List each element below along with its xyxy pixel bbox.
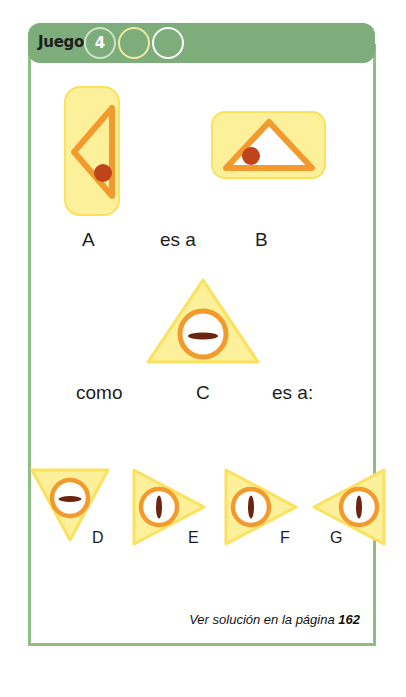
shape-c-bar bbox=[188, 333, 218, 340]
header-title: Juego bbox=[38, 33, 84, 52]
game-page: Juego 4 A es a B como C es a: bbox=[0, 0, 406, 697]
shape-c-triangle bbox=[146, 278, 260, 364]
option-d-label: D bbox=[92, 529, 104, 547]
shape-a-dot bbox=[94, 164, 112, 182]
option-e-label: E bbox=[188, 529, 199, 547]
relation-es-a-2: es a: bbox=[272, 382, 313, 404]
header-bar: Juego 4 bbox=[28, 23, 375, 63]
header-circle-white bbox=[152, 27, 184, 59]
solution-page-number: 162 bbox=[338, 612, 360, 627]
relation-es-a-1: es a bbox=[160, 229, 196, 251]
shape-b-triangle bbox=[222, 118, 316, 172]
shape-b-dot bbox=[242, 147, 260, 165]
label-c: C bbox=[196, 382, 210, 404]
option-g-label: G bbox=[330, 529, 342, 547]
label-b: B bbox=[255, 229, 268, 251]
solution-note: Ver solución en la página 162 bbox=[189, 612, 360, 627]
solution-note-text: Ver solución en la página bbox=[189, 612, 338, 627]
option-f-label: F bbox=[280, 529, 290, 547]
connector-como: como bbox=[76, 382, 122, 404]
option-g[interactable] bbox=[310, 466, 388, 548]
label-a: A bbox=[82, 229, 95, 251]
shape-a-triangle bbox=[72, 104, 116, 200]
header-badge-number: 4 bbox=[86, 29, 114, 57]
header-circle-yellow bbox=[118, 27, 150, 59]
header-circle-number: 4 bbox=[84, 27, 116, 59]
